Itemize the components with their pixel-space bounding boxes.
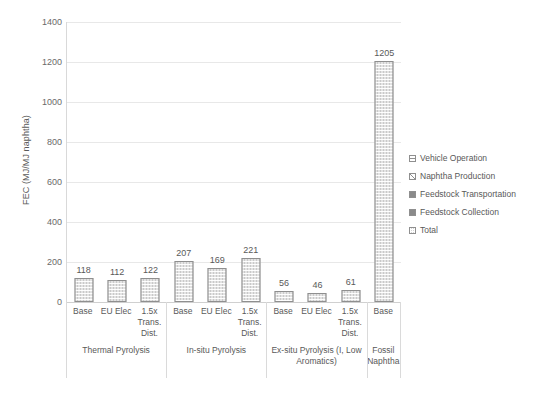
- y-axis-tick-label: 800: [22, 138, 62, 147]
- bar[interactable]: [108, 280, 127, 302]
- legend-swatch-icon: [409, 173, 416, 180]
- group-label: In-situ Pyrolysis: [166, 338, 266, 378]
- y-axis-tick-label: 1400: [22, 18, 62, 27]
- bar-slot: 1205: [368, 22, 401, 302]
- group-separator: [367, 302, 368, 378]
- category-label: EU Elec: [300, 302, 333, 338]
- group-separator: [266, 302, 267, 378]
- bar[interactable]: [308, 293, 327, 302]
- y-axis-tick-labels: 0200400600800100012001400: [22, 0, 62, 396]
- group-separator: [166, 302, 167, 378]
- y-axis-tick-label: 1000: [22, 98, 62, 107]
- bar[interactable]: [341, 290, 360, 302]
- group-label: Thermal Pyrolysis: [66, 338, 166, 378]
- group-label: Ex-situ Pyrolysis (I, Low Aromatics): [266, 338, 366, 378]
- legend-item[interactable]: Feedstock Collection: [409, 204, 539, 220]
- group-separator: [400, 302, 401, 378]
- legend-label: Feedstock Transportation: [420, 190, 516, 199]
- bar-slot: 122: [134, 22, 167, 302]
- bar-slot: 118: [67, 22, 100, 302]
- bar-value-label: 46: [312, 281, 322, 290]
- bar-slot: 207: [167, 22, 200, 302]
- legend-item[interactable]: Vehicle Operation: [409, 150, 539, 166]
- chart-legend: Vehicle OperationNaphtha ProductionFeeds…: [409, 150, 539, 240]
- bar[interactable]: [141, 278, 160, 302]
- y-axis-tick-label: 400: [22, 218, 62, 227]
- legend-swatch-icon: [409, 209, 416, 216]
- bar-value-label: 112: [110, 268, 124, 277]
- y-axis-tick-label: 600: [22, 178, 62, 187]
- bar[interactable]: [174, 261, 193, 302]
- category-label: Base: [266, 302, 299, 338]
- bar[interactable]: [241, 258, 260, 302]
- legend-label: Vehicle Operation: [420, 154, 487, 163]
- bar-value-label: 118: [77, 266, 91, 275]
- category-label: 1.5x Trans. Dist.: [333, 302, 366, 338]
- legend-item[interactable]: Naphtha Production: [409, 168, 539, 184]
- bar-value-label: 56: [279, 279, 289, 288]
- bar-slot: 46: [301, 22, 334, 302]
- group-axis: Thermal PyrolysisIn-situ PyrolysisEx-sit…: [66, 338, 400, 378]
- legend-swatch-icon: [409, 227, 416, 234]
- y-axis-tick-label: 0: [22, 298, 62, 307]
- bar-value-label: 122: [143, 266, 158, 275]
- category-axis: BaseEU Elec1.5x Trans. Dist.BaseEU Elec1…: [66, 302, 400, 338]
- category-label: EU Elec: [200, 302, 233, 338]
- bar-chart: FEC (MJ/MJ naphtha) 02004006008001000120…: [0, 0, 541, 396]
- legend-item[interactable]: Total: [409, 222, 539, 238]
- bar-slot: 112: [100, 22, 133, 302]
- bar-slot: 61: [334, 22, 367, 302]
- category-label: Base: [367, 302, 400, 338]
- bar[interactable]: [275, 291, 294, 302]
- group-separator: [66, 302, 67, 378]
- legend-item[interactable]: Feedstock Transportation: [409, 186, 539, 202]
- legend-label: Naphtha Production: [420, 172, 495, 181]
- category-label: Base: [66, 302, 99, 338]
- bar-value-label: 221: [243, 246, 258, 255]
- bars-layer: 1181121222071692215646611205: [67, 22, 401, 302]
- legend-label: Total: [420, 226, 438, 235]
- legend-swatch-icon: [409, 155, 416, 162]
- category-label: EU Elec: [99, 302, 132, 338]
- bar-value-label: 207: [176, 249, 191, 258]
- bar-value-label: 169: [210, 256, 225, 265]
- bar[interactable]: [74, 278, 93, 302]
- y-axis-tick-label: 200: [22, 258, 62, 267]
- bar-value-label: 61: [346, 278, 356, 287]
- group-label: Fossil Naphtha: [367, 338, 400, 378]
- bar[interactable]: [208, 268, 227, 302]
- category-label: 1.5x Trans. Dist.: [133, 302, 166, 338]
- category-label: Base: [166, 302, 199, 338]
- bar-value-label: 1205: [374, 49, 394, 58]
- plot-area: 1181121222071692215646611205: [66, 22, 400, 302]
- bar-slot: 169: [201, 22, 234, 302]
- bar-slot: 56: [267, 22, 300, 302]
- y-axis-tick-label: 1200: [22, 58, 62, 67]
- legend-label: Feedstock Collection: [420, 208, 499, 217]
- bar-slot: 221: [234, 22, 267, 302]
- bar[interactable]: [375, 61, 394, 302]
- legend-swatch-icon: [409, 191, 416, 198]
- category-label: 1.5x Trans. Dist.: [233, 302, 266, 338]
